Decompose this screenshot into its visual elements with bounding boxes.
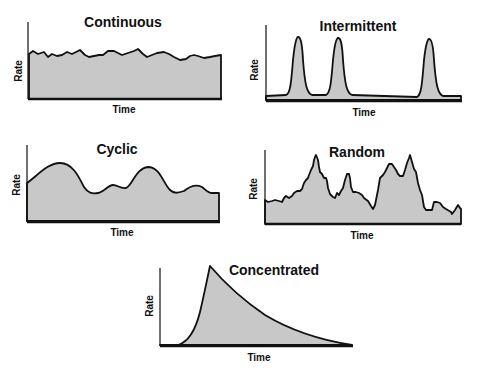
y-axis-label: Rate <box>144 295 155 317</box>
panel-cyclic: Cyclic Time Rate <box>11 141 220 238</box>
continuous-area <box>29 49 221 99</box>
panel-title: Cyclic <box>96 141 137 157</box>
x-axis-label: Time <box>247 352 271 363</box>
panel-concentrated: Concentrated Time Rate <box>144 262 353 363</box>
panel-intermittent: Intermittent Time Rate <box>249 18 462 118</box>
x-axis-label: Time <box>112 104 136 115</box>
intermittent-area <box>266 37 461 100</box>
y-axis-label: Rate <box>249 59 260 81</box>
random-area <box>265 155 461 224</box>
y-axis-label: Rate <box>13 60 24 82</box>
panel-title: Continuous <box>84 14 162 30</box>
x-axis-label: Time <box>110 227 134 238</box>
x-axis-label: Time <box>350 230 374 241</box>
y-axis-label: Rate <box>11 174 22 196</box>
cyclic-area <box>27 163 219 221</box>
panel-title: Concentrated <box>229 262 319 278</box>
panel-title: Random <box>329 144 385 160</box>
rate-patterns-figure: Continuous Time Rate Intermittent Time R… <box>0 0 477 373</box>
panel-random: Random Time Rate <box>248 144 461 241</box>
x-axis-label: Time <box>352 107 376 118</box>
panel-continuous: Continuous Time Rate <box>13 14 222 115</box>
y-axis-label: Rate <box>248 178 259 200</box>
panel-title: Intermittent <box>320 18 397 34</box>
